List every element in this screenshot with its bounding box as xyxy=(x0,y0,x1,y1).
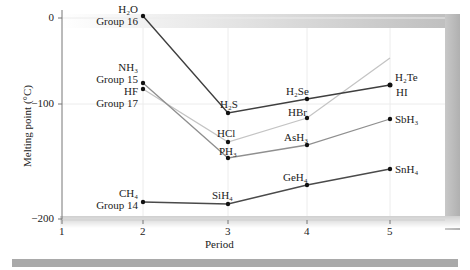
y-axis-label: Melting point (°C) xyxy=(21,71,33,181)
series-group-17 xyxy=(143,58,390,142)
label-geh4: GeH₄ xyxy=(283,171,308,183)
label-hf: HF xyxy=(80,85,138,97)
label-h2te: H₂Te xyxy=(395,71,418,83)
x-tick-2: 2 xyxy=(140,225,146,237)
label-h2o: H₂O xyxy=(80,3,138,15)
label-hi: HI xyxy=(396,86,408,98)
label-sbh3: SbH₃ xyxy=(395,113,418,125)
y-tick-minus200: −200 xyxy=(24,212,54,224)
label-ph3: PH₃ xyxy=(219,145,237,157)
label-snh4: SnH₄ xyxy=(395,163,418,175)
label-hcl: HCl xyxy=(217,127,235,139)
label-group-15: Group 15 xyxy=(80,73,138,85)
label-h2s: H₂S xyxy=(220,98,238,110)
series-group-14 xyxy=(143,169,390,204)
label-ash3: AsH₃ xyxy=(284,131,308,143)
label-group-17: Group 17 xyxy=(80,97,138,109)
label-group-14: Group 14 xyxy=(80,199,138,211)
y-tick-0: 0 xyxy=(24,11,54,23)
label-group-16: Group 16 xyxy=(80,15,138,27)
label-h2se: H₂Se xyxy=(286,85,309,97)
series-group-16 xyxy=(143,16,390,113)
x-tick-4: 4 xyxy=(304,225,310,237)
label-nh3: NH₃ xyxy=(80,61,138,73)
label-ch4: CH₄ xyxy=(80,187,138,199)
label-sih4: SiH₄ xyxy=(212,189,233,201)
x-tick-3: 3 xyxy=(225,225,231,237)
x-axis-label: Period xyxy=(205,238,234,250)
series-group-15 xyxy=(143,83,390,158)
x-tick-1: 1 xyxy=(59,225,65,237)
x-tick-5: 5 xyxy=(387,225,393,237)
label-hbr: HBr xyxy=(288,106,307,118)
